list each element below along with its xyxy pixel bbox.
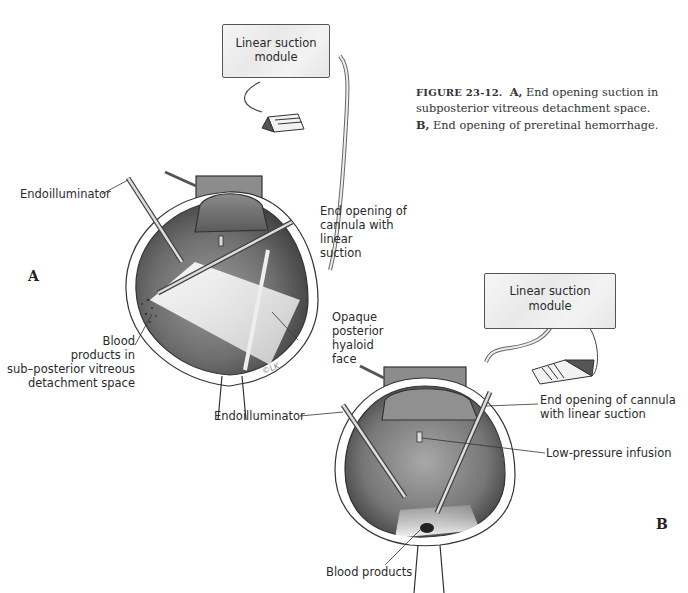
panel-b-endoilluminator-label: Endoilluminator — [214, 409, 305, 423]
panel-a-hyaloid-label-4: face — [332, 352, 357, 366]
panel-a-eye — [126, 172, 318, 420]
caption-a-letter: A, — [510, 85, 523, 99]
panel-b-eye — [335, 366, 515, 593]
panel-a-module-label-1: Linear suction — [223, 36, 329, 51]
panel-a-module-label-2: module — [223, 50, 329, 65]
caption-b-letter: B, — [416, 118, 429, 132]
panel-a-foot-pedal — [262, 114, 304, 132]
panel-b-infusion-label: Low-pressure infusion — [546, 446, 671, 460]
panel-a-suction-module: Linear suction module — [222, 24, 330, 78]
panel-b-module-label-1: Linear suction — [485, 284, 615, 299]
panel-b-foot-pedal — [532, 360, 594, 384]
panel-b-cannula-label-1: End opening of cannula — [540, 393, 676, 407]
panel-a-cannula-label-2: cannula with — [320, 218, 394, 232]
panel-a-endoilluminator-label: Endoilluminator — [20, 187, 111, 201]
panel-a-cannula-label-4: suction — [320, 246, 362, 260]
panel-b-letter: B — [656, 516, 668, 532]
panel-a-blood-label-4: detachment space — [28, 376, 135, 390]
panel-b-suction-module: Linear suction module — [484, 273, 616, 329]
panel-a-blood-label-3: sub–posterior vitreous — [7, 362, 135, 376]
panel-b-module-label-2: module — [485, 299, 615, 314]
figure-caption: FIGURE 23-12. A, End opening suction in … — [416, 84, 688, 134]
panel-a-cannula-label-1: End opening of — [320, 204, 407, 218]
panel-a-blood-label-2: products in — [71, 348, 135, 362]
figure-number: FIGURE 23-12. — [416, 87, 503, 98]
panel-b-cannula-label-2: with linear suction — [540, 407, 646, 421]
panel-a-hyaloid-label-2: posterior — [332, 324, 384, 338]
caption-b-text: End opening of preretinal hemorrhage. — [433, 119, 658, 132]
panel-a-hyaloid-label-3: hyaloid — [332, 338, 374, 352]
panel-b-blood-label: Blood products — [326, 565, 412, 579]
panel-a-cannula-label-3: linear — [320, 232, 353, 246]
panel-a-blood-label-1: Blood — [103, 334, 135, 348]
panel-a-letter: A — [28, 268, 39, 284]
panel-a-hyaloid-label-1: Opaque — [332, 310, 377, 324]
